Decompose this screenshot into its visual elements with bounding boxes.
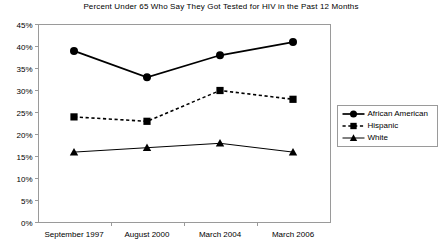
- y-axis-tick-label: 45%: [16, 21, 32, 30]
- data-point-marker: [143, 73, 151, 81]
- x-axis-tick-label: March 2006: [272, 230, 315, 239]
- y-axis-tick-label: 30%: [16, 87, 32, 96]
- data-point-marker: [216, 139, 224, 146]
- y-axis-tick-label: 5%: [21, 197, 33, 206]
- data-point-marker: [350, 123, 356, 129]
- chart-series: [70, 139, 297, 155]
- data-point-marker: [143, 118, 150, 125]
- series-line: [74, 42, 293, 77]
- x-axis-tick-label: March 2004: [199, 230, 242, 239]
- x-axis-tick-label: September 1997: [44, 230, 104, 239]
- chart-series-group: [70, 38, 297, 155]
- legend-item-label: White: [368, 133, 389, 142]
- x-axis-tick-label: August 2000: [125, 230, 170, 239]
- y-axis-tick-label: 0%: [21, 219, 33, 228]
- y-axis-tick-label: 25%: [16, 109, 32, 118]
- data-point-marker: [70, 113, 77, 120]
- line-chart-plot: 0%5%10%15%20%25%30%35%40%45% September 1…: [0, 0, 442, 249]
- y-axis-tick-labels: 0%5%10%15%20%25%30%35%40%45%: [16, 21, 38, 228]
- data-point-marker: [350, 110, 357, 117]
- series-line: [74, 143, 293, 152]
- data-point-marker: [216, 51, 224, 59]
- data-point-marker: [289, 38, 297, 46]
- y-axis-tick-label: 20%: [16, 131, 32, 140]
- legend-item-label: African American: [368, 109, 428, 118]
- chart-series: [70, 87, 296, 125]
- legend-item-label: Hispanic: [368, 121, 399, 130]
- x-axis-tick-labels: September 1997August 2000March 2004March…: [44, 223, 314, 239]
- y-axis-tick-label: 40%: [16, 43, 32, 52]
- data-point-marker: [289, 96, 296, 103]
- y-axis-tick-label: 15%: [16, 153, 32, 162]
- data-point-marker: [70, 47, 78, 55]
- chart-legend: African AmericanHispanicWhite: [338, 106, 438, 147]
- y-axis-tick-label: 35%: [16, 65, 32, 74]
- series-line: [74, 91, 293, 122]
- y-axis-tick-label: 10%: [16, 175, 32, 184]
- data-point-marker: [216, 87, 223, 94]
- chart-container: Percent Under 65 Who Say They Got Tested…: [0, 0, 442, 249]
- chart-series: [70, 38, 297, 81]
